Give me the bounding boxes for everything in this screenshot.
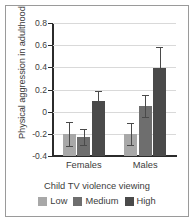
error-bar — [131, 123, 132, 145]
error-bar-cap — [127, 123, 134, 124]
y-tick-label: 0.8 — [35, 18, 47, 28]
y-tick-mark — [48, 156, 53, 157]
y-tick-mark — [48, 67, 53, 68]
error-bar-cap — [80, 145, 87, 146]
figure-frame: Physical aggression in adulthood -0.4-0.… — [5, 5, 189, 217]
y-tick-label: -0.4 — [32, 151, 47, 161]
error-bar — [69, 122, 70, 146]
legend-swatch-icon — [38, 197, 47, 206]
legend-item: High — [125, 196, 156, 206]
x-axis-group-label: Males — [133, 160, 158, 170]
y-tick-mark — [48, 90, 53, 91]
error-bar-cap — [156, 90, 163, 91]
legend-label: Low — [50, 196, 67, 206]
y-tick-label: 0 — [42, 107, 47, 117]
legend-swatch-icon — [73, 197, 82, 206]
error-bar — [145, 95, 146, 117]
error-bar — [160, 47, 161, 89]
gridline — [53, 23, 176, 24]
y-tick-label: 0.6 — [35, 40, 47, 50]
y-tick-mark — [48, 45, 53, 46]
error-bar-cap — [66, 146, 73, 147]
error-bar-cap — [142, 117, 149, 118]
legend-label: Medium — [85, 196, 118, 206]
error-bar-cap — [95, 111, 102, 112]
y-axis-title: Physical aggression in adulthood — [17, 9, 27, 139]
y-tick-mark — [48, 112, 53, 113]
legend-item: Medium — [73, 196, 118, 206]
legend-swatch-icon — [125, 197, 134, 206]
legend: LowMediumHigh — [6, 196, 188, 206]
error-bar-cap — [142, 95, 149, 96]
x-axis-group-label: Females — [66, 160, 102, 170]
legend-label: High — [137, 196, 156, 206]
chart-area: Physical aggression in adulthood -0.4-0.… — [6, 6, 188, 216]
y-tick-label: 0.2 — [35, 85, 47, 95]
error-bar — [84, 129, 85, 145]
y-tick-mark — [48, 134, 53, 135]
gridline — [53, 45, 176, 46]
error-bar-cap — [127, 145, 134, 146]
error-bar-cap — [66, 122, 73, 123]
y-tick-label: -0.2 — [32, 129, 47, 139]
error-bar-cap — [80, 129, 87, 130]
y-tick-mark — [48, 23, 53, 24]
legend-item: Low — [38, 196, 67, 206]
x-axis-title: Child TV violence viewing — [6, 181, 188, 191]
y-tick-label: 0.4 — [35, 62, 47, 72]
error-bar-cap — [156, 47, 163, 48]
error-bar-cap — [95, 91, 102, 92]
error-bar — [98, 91, 99, 111]
plot-area: -0.4-0.200.20.40.60.8 FemalesMales — [53, 23, 176, 156]
